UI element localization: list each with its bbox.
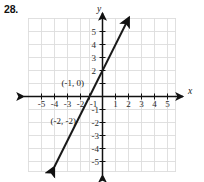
x-tick-label: -4 xyxy=(51,99,59,109)
point-label-x-intercept: (-1, 0) xyxy=(62,78,85,88)
x-tick-labels: -5 -4 -3 -2 -1 1 2 3 4 5 xyxy=(38,99,171,109)
y-tick-label: -3 xyxy=(92,131,100,141)
y-tick-label: 3 xyxy=(92,53,97,63)
y-tick-label: 5 xyxy=(92,27,97,37)
y-tick-label: -4 xyxy=(92,144,100,154)
y-tick-label: -5 xyxy=(92,157,100,167)
y-tick-label: -1 xyxy=(92,105,100,115)
x-tick-label: 3 xyxy=(139,99,144,109)
x-tick-label: -5 xyxy=(38,99,46,109)
axes xyxy=(24,13,183,175)
y-tick-label: 2 xyxy=(92,66,97,76)
x-tick-label: 2 xyxy=(126,99,131,109)
x-tick-label: 5 xyxy=(165,99,170,109)
x-tick-label: 1 xyxy=(113,99,118,109)
graph-svg: -5 -4 -3 -2 -1 1 2 3 4 5 5 4 3 2 -1 -2 -… xyxy=(0,0,204,182)
point-label-second-point: (-2, -2) xyxy=(51,116,77,126)
y-tick-label: 4 xyxy=(92,40,97,50)
x-tick-label: 4 xyxy=(152,99,157,109)
x-tick-label: -3 xyxy=(64,99,72,109)
coordinate-plane-figure: -5 -4 -3 -2 -1 1 2 3 4 5 5 4 3 2 -1 -2 -… xyxy=(0,0,204,182)
y-tick-label: -2 xyxy=(92,118,100,128)
x-axis-label: x xyxy=(187,86,193,96)
y-axis-label: y xyxy=(96,4,102,14)
